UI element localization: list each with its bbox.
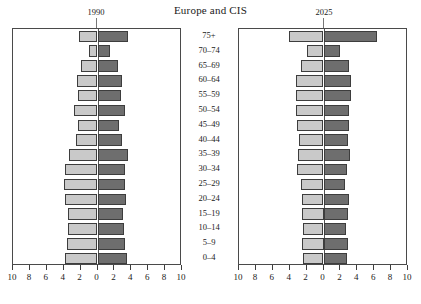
bar-left-25–29 xyxy=(64,179,98,191)
bar-left-55–59 xyxy=(78,90,97,102)
age-group-label: 55–59 xyxy=(186,90,232,99)
age-group-label: 70–74 xyxy=(186,46,232,55)
bar-row xyxy=(13,75,180,87)
age-group-label: 30–34 xyxy=(186,164,232,173)
bar-row xyxy=(13,164,180,176)
age-group-label: 20–24 xyxy=(186,194,232,203)
bar-left-20–24 xyxy=(302,194,324,206)
age-group-label: 5–9 xyxy=(186,238,232,247)
bar-left-60–64 xyxy=(296,75,323,87)
age-group-label: 60–64 xyxy=(186,75,232,84)
axis-tick xyxy=(12,265,13,270)
axis-tick xyxy=(373,265,374,270)
bar-left-5–9 xyxy=(302,238,323,250)
bar-right-0–4 xyxy=(324,253,348,265)
bar-left-30–34 xyxy=(297,164,323,176)
axis-tick xyxy=(390,265,391,270)
age-group-label: 10–14 xyxy=(186,223,232,232)
bar-row xyxy=(239,31,406,43)
bar-right-10–14 xyxy=(98,223,124,235)
bar-left-5–9 xyxy=(67,238,97,250)
bar-row xyxy=(239,90,406,102)
bar-right-75plus xyxy=(324,31,377,43)
bar-left-60–64 xyxy=(77,75,97,87)
bar-right-20–24 xyxy=(98,194,127,206)
axis-tick xyxy=(113,265,114,270)
axis-tick xyxy=(97,265,98,270)
bar-row xyxy=(13,149,180,161)
axis-tick xyxy=(289,265,290,270)
bar-left-10–14 xyxy=(68,223,98,235)
axis-tick-label: 10 xyxy=(171,272,191,282)
bar-right-40–44 xyxy=(98,134,123,146)
bar-row xyxy=(239,45,406,57)
bar-left-10–14 xyxy=(303,223,323,235)
bar-left-20–24 xyxy=(65,194,97,206)
bar-row xyxy=(239,164,406,176)
bar-right-5–9 xyxy=(98,238,125,250)
page-title: Europe and CIS xyxy=(0,4,421,16)
bar-right-55–59 xyxy=(98,90,122,102)
axis-tick-label: 10 xyxy=(397,272,417,282)
bar-right-35–39 xyxy=(324,149,350,161)
axis-tick xyxy=(407,265,408,270)
axis-tick xyxy=(356,265,357,270)
bar-right-60–64 xyxy=(98,75,123,87)
bar-right-75plus xyxy=(98,31,128,43)
bar-left-65–69 xyxy=(81,60,98,72)
axis-tick xyxy=(255,265,256,270)
age-group-label: 40–44 xyxy=(186,135,232,144)
bar-row xyxy=(13,238,180,250)
bar-right-65–69 xyxy=(324,60,349,72)
age-group-labels: 75+70–7465–6960–6455–5950–5445–4940–4435… xyxy=(186,28,232,265)
age-group-label: 15–19 xyxy=(186,209,232,218)
age-group-label: 35–39 xyxy=(186,149,232,158)
x-axis-labels-1990: 1086420246810 xyxy=(12,272,181,286)
bar-left-55–59 xyxy=(296,90,323,102)
bar-right-0–4 xyxy=(98,253,128,265)
bar-right-35–39 xyxy=(98,149,128,161)
axis-tick xyxy=(164,265,165,270)
bar-right-25–29 xyxy=(98,179,126,191)
axis-tick xyxy=(29,265,30,270)
bar-left-70–74 xyxy=(307,45,324,57)
bar-right-50–54 xyxy=(324,105,349,117)
bar-right-20–24 xyxy=(324,194,349,206)
bar-row xyxy=(13,105,180,117)
bar-left-45–49 xyxy=(78,120,97,132)
axis-tick xyxy=(181,265,182,270)
bar-left-15–19 xyxy=(68,208,98,220)
bar-right-5–9 xyxy=(324,238,349,250)
axis-tick xyxy=(130,265,131,270)
axis-tick xyxy=(63,265,64,270)
bar-right-45–49 xyxy=(98,120,120,132)
bar-left-0–4 xyxy=(303,253,323,265)
bar-left-65–69 xyxy=(301,60,324,72)
bar-row xyxy=(13,134,180,146)
bar-left-35–39 xyxy=(298,149,323,161)
axis-tick xyxy=(80,265,81,270)
x-axis-ticks-1990 xyxy=(12,265,181,271)
bar-left-70–74 xyxy=(89,45,97,57)
bar-row xyxy=(239,134,406,146)
bar-left-50–54 xyxy=(296,105,324,117)
bar-row xyxy=(239,208,406,220)
x-axis-labels-2025: 1086420246810 xyxy=(238,272,407,286)
bar-right-70–74 xyxy=(98,45,111,57)
bar-row xyxy=(13,120,180,132)
bar-row xyxy=(13,194,180,206)
bar-left-35–39 xyxy=(69,149,98,161)
bar-row xyxy=(239,253,406,265)
age-group-label: 45–49 xyxy=(186,120,232,129)
axis-tick xyxy=(238,265,239,270)
bar-row xyxy=(239,194,406,206)
bar-right-25–29 xyxy=(324,179,346,191)
bar-right-40–44 xyxy=(324,134,349,146)
bar-left-40–44 xyxy=(76,134,98,146)
age-group-label: 0–4 xyxy=(186,253,232,262)
bar-row xyxy=(13,223,180,235)
bar-right-15–19 xyxy=(324,208,349,220)
bar-row xyxy=(239,179,406,191)
bar-right-15–19 xyxy=(98,208,123,220)
bar-row xyxy=(13,90,180,102)
